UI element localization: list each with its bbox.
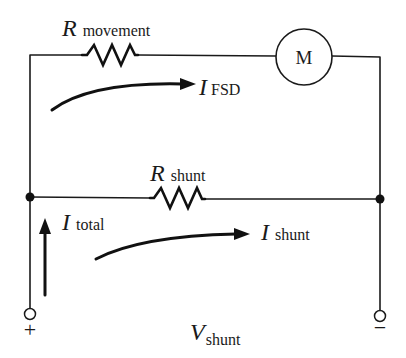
r-movement-label: Rmovement — [61, 15, 151, 41]
r-shunt-resistor — [150, 188, 205, 208]
i-shunt-arrow — [96, 234, 236, 259]
meter-label: M — [296, 47, 313, 68]
i-fsd-arrow — [52, 84, 182, 110]
i-fsd-symbol: I — [198, 74, 208, 100]
top-wire-right — [332, 56, 380, 199]
right-junction-dot — [376, 195, 385, 204]
v-shunt-label: Vshunt — [190, 319, 241, 348]
r-shunt-subscript: shunt — [171, 167, 206, 184]
v-shunt-symbol: V — [190, 319, 207, 345]
i-total-arrowhead — [39, 218, 51, 234]
i-fsd-arrowhead — [180, 78, 196, 90]
v-shunt-subscript: shunt — [206, 331, 241, 348]
i-total-subscript: total — [76, 216, 105, 233]
r-shunt-symbol: R — [149, 160, 165, 186]
left-junction-dot — [26, 193, 35, 202]
i-total-label: Itotal — [61, 209, 105, 235]
i-shunt-subscript: shunt — [275, 226, 310, 243]
negative-terminal-label: − — [374, 315, 386, 340]
i-shunt-symbol: I — [260, 219, 270, 245]
r-movement-subscript: movement — [83, 22, 151, 39]
i-fsd-label: IFSD — [198, 74, 240, 100]
i-fsd-subscript: FSD — [211, 81, 240, 98]
r-movement-symbol: R — [61, 15, 77, 41]
shunt-wire-left — [30, 197, 150, 198]
positive-terminal-label: + — [24, 317, 36, 342]
i-shunt-arrowhead — [234, 228, 250, 240]
r-movement-resistor — [82, 45, 138, 65]
r-shunt-label: Rshunt — [149, 160, 206, 186]
top-wire-middle — [138, 55, 276, 56]
circuit-diagram: M Rmovement IFSD Rshunt Itotal Ishunt Vs… — [0, 0, 406, 358]
top-wire-left — [30, 55, 82, 198]
i-total-symbol: I — [61, 209, 71, 235]
i-shunt-label: Ishunt — [260, 219, 310, 245]
